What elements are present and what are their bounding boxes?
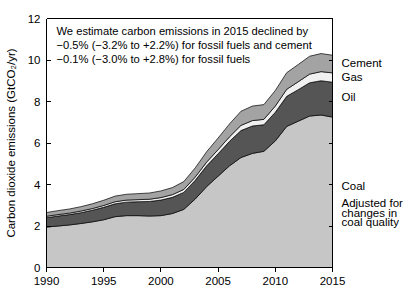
annotation-line-1: We estimate carbon emissions in 2015 dec… [57,25,309,37]
x-tick-label: 1990 [34,275,60,287]
inline-label-gas: Gas [342,71,363,83]
y-tick-label: 2 [34,220,40,232]
y-tick-label: 12 [28,13,41,25]
y-tick-label: 4 [34,179,41,191]
inline-label-oil: Oil [342,91,356,103]
co2-emissions-stacked-area-chart: 024681012 199019952000200520102015 Carbo… [0,0,410,303]
x-tick-label: 2010 [263,275,289,287]
x-tick-label: 2005 [205,275,231,287]
inline-label-coal: Coal [342,180,366,192]
y-axis-title: Carbon dioxide emissions (GtCO₂/yr) [5,48,17,237]
y-tick-label: 0 [34,262,40,274]
x-tick-label: 1995 [91,275,117,287]
inline-label-cement: Cement [342,57,383,69]
y-tick-label: 6 [34,137,40,149]
x-tick-label: 2000 [148,275,174,287]
y-tick-label: 8 [34,96,40,108]
chart-figure: 024681012 199019952000200520102015 Carbo… [0,0,410,303]
y-tick-label: 10 [28,54,41,66]
annotation-line-2: −0.5% (−3.2% to +2.2%) for fossil fuels … [57,39,313,51]
x-tick-label: 2015 [320,275,346,287]
inline-label-coal-quality: coal quality [342,216,400,228]
annotation-line-3: −0.1% (−3.0% to +2.8%) for fossil fuels [57,53,251,65]
